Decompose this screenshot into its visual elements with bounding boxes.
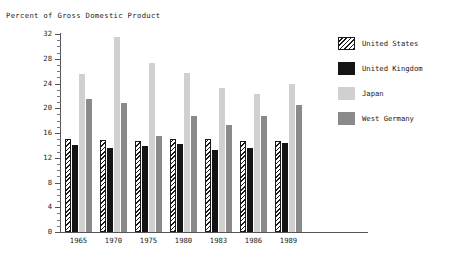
legend-label: West Germany [362, 113, 414, 124]
bar [282, 143, 288, 232]
bar [170, 139, 176, 232]
bar [296, 105, 302, 232]
bar [72, 145, 78, 232]
y-tick-label: 8 [2, 179, 52, 186]
bar-chart: Percent of Gross Domestic Product 048121… [0, 0, 449, 258]
bar [275, 141, 281, 232]
bar [156, 136, 162, 232]
legend-label: United Kingdom [362, 63, 423, 74]
y-tick-label: 28 [2, 55, 52, 62]
legend-swatch [338, 87, 355, 100]
y-tick-label: 0 [2, 228, 52, 235]
legend-swatch [338, 37, 355, 50]
bar [142, 146, 148, 232]
bar [226, 125, 232, 232]
y-tick-label: 16 [2, 129, 52, 136]
bar [247, 148, 253, 232]
legend-item: United States [338, 36, 446, 61]
bar [114, 37, 120, 232]
bar [212, 150, 218, 232]
bar [184, 73, 190, 232]
bar [289, 84, 295, 233]
legend-label: Japan [362, 88, 384, 99]
bar [107, 148, 113, 232]
legend-item: United Kingdom [338, 61, 446, 86]
bar [86, 99, 92, 232]
bar [100, 140, 106, 232]
legend-item: Japan [338, 86, 446, 111]
bar [149, 63, 155, 232]
x-tick-label: 1970 [94, 237, 134, 245]
bar [177, 144, 183, 232]
y-tick-label: 12 [2, 154, 52, 161]
y-tick-major [55, 232, 61, 233]
legend-swatch [338, 62, 355, 75]
x-axis-line [60, 232, 368, 233]
x-tick-label: 1983 [199, 237, 239, 245]
x-tick-label: 1980 [164, 237, 204, 245]
x-tick-label: 1989 [269, 237, 309, 245]
y-tick-label: 20 [2, 104, 52, 111]
bar [135, 141, 141, 232]
x-tick-label: 1975 [129, 237, 169, 245]
bar [121, 103, 127, 232]
bar [191, 116, 197, 232]
y-tick-label: 24 [2, 80, 52, 87]
legend-swatch [338, 112, 355, 125]
x-tick-label: 1986 [234, 237, 274, 245]
bar [65, 139, 71, 232]
legend-label: United States [362, 38, 418, 49]
bar [79, 74, 85, 232]
bar [261, 116, 267, 232]
chart-legend: United StatesUnited KingdomJapanWest Ger… [338, 36, 446, 136]
bar [254, 94, 260, 232]
plot-area [61, 34, 306, 232]
y-tick-label: 4 [2, 203, 52, 210]
legend-item: West Germany [338, 111, 446, 136]
bar [240, 141, 246, 232]
y-axis-title: Percent of Gross Domestic Product [6, 11, 160, 20]
bar [219, 88, 225, 232]
y-tick-label: 32 [2, 30, 52, 37]
x-tick-label: 1965 [59, 237, 99, 245]
bar [205, 139, 211, 232]
